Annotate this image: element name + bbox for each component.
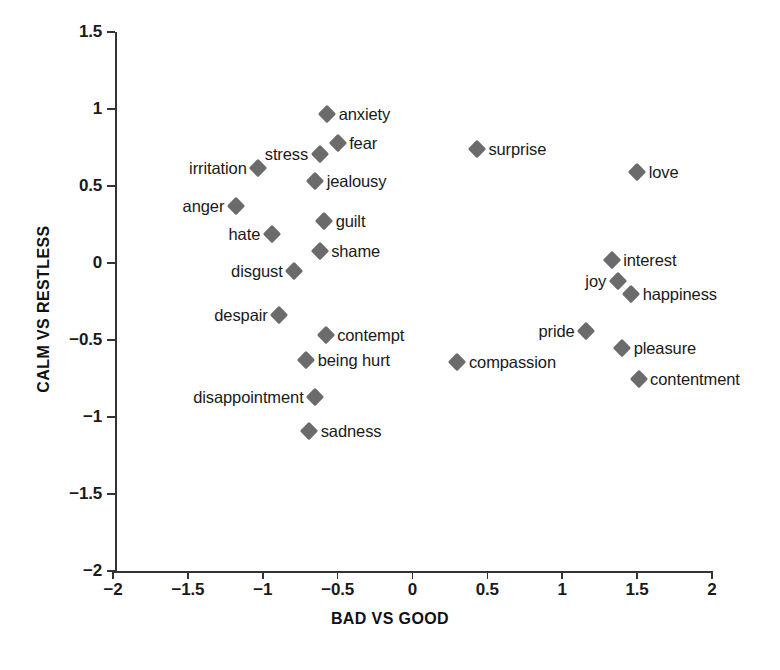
x-tick-1 (561, 571, 563, 579)
point-group: pleasure (616, 338, 697, 357)
diamond-marker-icon (227, 197, 245, 215)
y-tick-label--2: −2 (42, 561, 102, 581)
x-tick-0.5 (487, 571, 489, 579)
point-label: love (649, 163, 679, 182)
diamond-marker-icon (315, 212, 333, 230)
point-group: irritation (189, 158, 265, 177)
point-label: pride (539, 321, 575, 340)
point-label: jealousy (327, 172, 387, 191)
point-label: joy (585, 272, 606, 291)
point-group: being hurt (300, 351, 390, 370)
point-group: jealousy (309, 172, 387, 191)
x-tick-2 (711, 571, 713, 579)
x-tick-label--1: −1 (233, 580, 293, 600)
point-group: contempt (319, 326, 404, 345)
y-tick--2 (107, 570, 115, 572)
point-label: sadness (321, 421, 382, 440)
y-tick-0 (107, 262, 115, 264)
point-group: stress (265, 144, 326, 163)
point-label: guilt (336, 212, 366, 231)
point-group: guilt (318, 212, 366, 231)
y-tick-1.5 (107, 31, 115, 33)
point-label: irritation (189, 158, 247, 177)
diamond-marker-icon (310, 144, 328, 162)
diamond-marker-icon (468, 140, 486, 158)
point-label: anger (183, 197, 225, 216)
point-label: disappointment (193, 387, 304, 406)
point-label: pleasure (634, 338, 697, 357)
point-group: fear (331, 133, 377, 152)
x-tick--1.5 (187, 571, 189, 579)
x-tick-label--2: −2 (83, 580, 143, 600)
x-tick-label--0.5: −0.5 (308, 580, 368, 600)
diamond-marker-icon (270, 306, 288, 324)
diamond-marker-icon (613, 338, 631, 356)
point-label: fear (349, 133, 377, 152)
diamond-marker-icon (622, 285, 640, 303)
point-group: surprise (470, 140, 546, 159)
y-tick-0.5 (107, 185, 115, 187)
point-group: compassion (451, 352, 556, 371)
point-group: pride (539, 321, 593, 340)
point-group: despair (214, 306, 285, 325)
x-tick-label--1.5: −1.5 (158, 580, 218, 600)
x-tick-1.5 (636, 571, 638, 579)
diamond-marker-icon (602, 251, 620, 269)
point-label: surprise (488, 140, 546, 159)
y-tick--0.5 (107, 339, 115, 341)
diamond-marker-icon (629, 369, 647, 387)
point-group: joy (585, 272, 624, 291)
x-tick-label-1.5: 1.5 (607, 580, 667, 600)
x-tick-label-2: 2 (682, 580, 742, 600)
y-tick--1 (107, 416, 115, 418)
point-label: anxiety (339, 104, 391, 123)
point-group: hate (229, 224, 279, 243)
y-tick-label-1: 1 (42, 99, 102, 119)
diamond-marker-icon (448, 352, 466, 370)
x-tick-0 (412, 571, 414, 579)
y-tick-label--1.5: −1.5 (42, 484, 102, 504)
diamond-marker-icon (310, 241, 328, 259)
point-label: hate (229, 224, 261, 243)
y-tick-1 (107, 108, 115, 110)
x-tick--1 (262, 571, 264, 579)
diamond-marker-icon (577, 322, 595, 340)
diamond-marker-icon (306, 388, 324, 406)
point-group: love (631, 163, 679, 182)
point-group: contentment (632, 369, 740, 388)
point-group: disappointment (193, 387, 322, 406)
point-label: being hurt (318, 351, 390, 370)
point-group: anxiety (321, 104, 391, 123)
x-axis-title: BAD VS GOOD (0, 610, 780, 628)
x-tick-label-0.5: 0.5 (457, 580, 517, 600)
y-axis-title: CALM VS RESTLESS (35, 169, 53, 449)
diamond-marker-icon (300, 422, 318, 440)
diamond-marker-icon (318, 104, 336, 122)
point-label: contentment (650, 369, 740, 388)
diamond-marker-icon (297, 351, 315, 369)
point-label: contempt (337, 326, 404, 345)
point-label: compassion (469, 352, 556, 371)
y-tick-label-1.5: 1.5 (42, 22, 102, 42)
point-group: interest (605, 250, 676, 269)
x-tick--2 (112, 571, 114, 579)
diamond-marker-icon (306, 172, 324, 190)
point-label: interest (623, 250, 676, 269)
point-label: disgust (231, 261, 283, 280)
point-label: stress (265, 144, 308, 163)
x-tick-label-0: 0 (383, 580, 443, 600)
point-group: anger (183, 197, 243, 216)
point-label: shame (331, 241, 380, 260)
point-label: happiness (643, 284, 717, 303)
scatter-plot: 1.510.50−0.5−1−1.5−2 −2−1.5−1−0.500.511.… (0, 0, 780, 670)
y-tick--1.5 (107, 493, 115, 495)
diamond-marker-icon (285, 261, 303, 279)
diamond-marker-icon (263, 225, 281, 243)
x-tick--0.5 (337, 571, 339, 579)
point-group: shame (313, 241, 380, 260)
y-axis-line (115, 32, 117, 573)
point-group: disgust (231, 261, 301, 280)
diamond-marker-icon (328, 134, 346, 152)
point-group: happiness (625, 284, 717, 303)
diamond-marker-icon (316, 326, 334, 344)
